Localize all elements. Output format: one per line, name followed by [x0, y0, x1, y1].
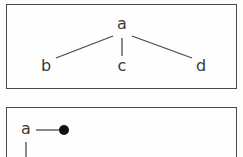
- node-label-c: c: [114, 58, 130, 74]
- node-label-d: d: [193, 58, 209, 74]
- node-label-a2: a: [18, 121, 34, 137]
- figure-page: a b c d a: [0, 0, 243, 157]
- node-label-a: a: [114, 16, 130, 32]
- bottom-panel-frame: [6, 107, 237, 157]
- node-label-b: b: [38, 58, 54, 74]
